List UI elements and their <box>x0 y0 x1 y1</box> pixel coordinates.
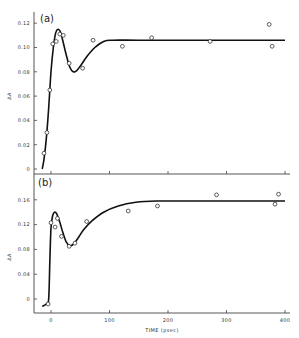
panel-a-y-axis-title: ΔA <box>6 92 12 100</box>
data-point <box>85 220 89 224</box>
y-tick-label: 0.16 <box>18 197 30 203</box>
data-point <box>67 61 71 65</box>
panel-b: (b) 00.040.080.120.16 0100200300400 ΔA <box>6 174 290 323</box>
data-point <box>91 38 95 42</box>
panel-a-fit-curve <box>42 29 285 169</box>
x-tick-label: 400 <box>280 317 290 323</box>
panel-b-label: (b) <box>38 177 52 188</box>
y-tick-label: 0 <box>27 296 30 302</box>
axis-line <box>34 12 290 174</box>
x-tick-label: 100 <box>104 317 114 323</box>
y-tick-label: 0.12 <box>18 221 30 227</box>
data-point <box>54 40 58 44</box>
x-tick-label: 0 <box>49 317 52 323</box>
panel-b-y-axis-title: ΔA <box>6 253 12 261</box>
data-point <box>273 202 277 206</box>
data-point <box>208 40 212 44</box>
y-tick-label: 0.08 <box>18 246 30 252</box>
data-point <box>267 23 271 27</box>
data-point <box>81 66 85 70</box>
data-point <box>56 217 60 221</box>
y-tick-label: 0.02 <box>18 142 30 148</box>
fit-curve <box>42 201 285 306</box>
data-point <box>51 42 55 46</box>
x-axis-title: TIME (psec) <box>144 327 179 334</box>
data-point <box>46 302 50 306</box>
panel-a-axes <box>34 12 290 174</box>
y-tick-label: 0.08 <box>18 69 30 75</box>
panel-b-x-ticks: 0100200300400 <box>49 310 290 323</box>
fit-curve <box>42 29 285 169</box>
figure: (a) 00.020.040.060.080.100.12 ΔA (b) 00.… <box>0 0 299 338</box>
panel-a: (a) 00.020.040.060.080.100.12 ΔA <box>6 12 290 174</box>
x-tick-label: 200 <box>163 317 173 323</box>
data-point <box>61 33 65 37</box>
data-point <box>42 151 46 155</box>
data-point <box>67 244 71 248</box>
data-point <box>53 225 57 229</box>
y-tick-label: 0.04 <box>18 117 30 123</box>
axis-line <box>34 174 290 313</box>
data-point <box>73 241 77 245</box>
data-point <box>277 192 281 196</box>
x-tick-label: 300 <box>221 317 231 323</box>
y-tick-label: 0.12 <box>18 20 30 26</box>
panel-b-data-points <box>46 192 280 306</box>
data-point <box>60 234 64 238</box>
data-point <box>126 209 130 213</box>
data-point <box>45 131 49 135</box>
y-tick-label: 0 <box>27 166 30 172</box>
data-point <box>120 44 124 48</box>
data-point <box>156 204 160 208</box>
data-point <box>48 88 52 92</box>
panel-a-label: (a) <box>40 13 54 24</box>
panel-b-fit-curve <box>42 201 285 306</box>
panel-b-axes <box>34 174 290 313</box>
panel-a-data-points <box>42 23 274 156</box>
y-tick-label: 0.06 <box>18 93 30 99</box>
y-tick-label: 0.10 <box>18 44 30 50</box>
data-point <box>215 193 219 197</box>
y-tick-label: 0.04 <box>18 271 30 277</box>
data-point <box>270 44 274 48</box>
data-point <box>49 221 53 225</box>
data-point <box>150 36 154 40</box>
